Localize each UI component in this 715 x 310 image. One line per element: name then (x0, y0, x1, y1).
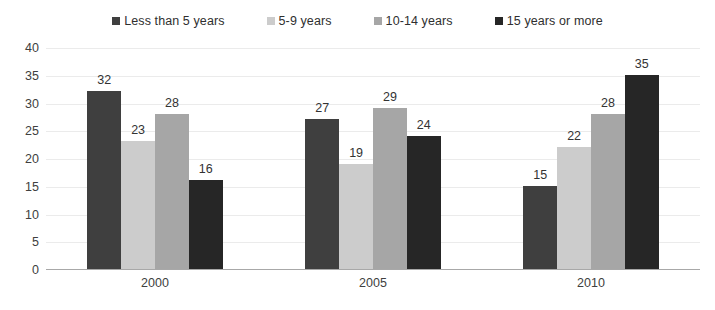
bar-value-label: 32 (87, 73, 121, 87)
bar[interactable]: 27 (305, 119, 339, 269)
bar-value-label: 23 (121, 123, 155, 137)
bar[interactable]: 23 (121, 141, 155, 269)
bar[interactable]: 15 (523, 186, 557, 269)
bar-value-label: 28 (155, 96, 189, 110)
bar-slot: 24 (407, 48, 441, 269)
bar-slot: 27 (305, 48, 339, 269)
bar-slot: 22 (557, 48, 591, 269)
x-axis-category-label: 2005 (264, 276, 482, 291)
bar-group: 32232816 (46, 48, 264, 269)
bar-slot: 29 (373, 48, 407, 269)
y-axis-tick-label: 5 (32, 236, 39, 249)
bar-value-label: 22 (557, 129, 591, 143)
bar-slot: 23 (121, 48, 155, 269)
bar-groups: 322328162719292415222835 (46, 48, 700, 269)
plot-area: 0510152025303540 32232816271929241522283… (46, 48, 700, 270)
y-axis-tick-label: 0 (32, 264, 39, 277)
bar[interactable]: 29 (373, 108, 407, 269)
bar-slot: 19 (339, 48, 373, 269)
bar-group: 15222835 (482, 48, 700, 269)
legend-label: 15 years or more (507, 14, 603, 28)
y-axis-tick-label: 35 (25, 69, 39, 82)
x-axis-category-label: 2000 (46, 276, 264, 291)
legend-swatch-icon (374, 17, 382, 25)
bar-value-label: 15 (523, 168, 557, 182)
x-axis-line (46, 269, 700, 270)
chart-legend: Less than 5 years 5-9 years 10-14 years … (0, 11, 715, 31)
y-axis-tick-label: 10 (25, 208, 39, 221)
legend-swatch-icon (112, 17, 120, 25)
y-axis-tick-label: 30 (25, 97, 39, 110)
legend-label: 5-9 years (279, 14, 332, 28)
x-axis-labels: 200020052010 (46, 276, 700, 291)
y-axis-tick-label: 15 (25, 180, 39, 193)
bar-slot: 28 (155, 48, 189, 269)
bar-value-label: 29 (373, 90, 407, 104)
bar-value-label: 24 (407, 118, 441, 132)
bar-value-label: 19 (339, 146, 373, 160)
bar-group: 27192924 (264, 48, 482, 269)
bar[interactable]: 28 (591, 114, 625, 269)
bar-slot: 15 (523, 48, 557, 269)
bar[interactable]: 35 (625, 75, 659, 269)
y-axis-tick-label: 25 (25, 125, 39, 138)
bar-chart: Less than 5 years 5-9 years 10-14 years … (0, 0, 715, 310)
bar-value-label: 35 (625, 57, 659, 71)
bar-value-label: 16 (189, 162, 223, 176)
y-axis-tick-label: 40 (25, 42, 39, 55)
bar-slot: 35 (625, 48, 659, 269)
bar[interactable]: 19 (339, 164, 373, 269)
bar[interactable]: 32 (87, 91, 121, 269)
bar[interactable]: 24 (407, 136, 441, 269)
bar-slot: 28 (591, 48, 625, 269)
y-axis-tick-label: 20 (25, 153, 39, 166)
legend-swatch-icon (495, 17, 503, 25)
bar-slot: 16 (189, 48, 223, 269)
bar-group-bars: 15222835 (523, 48, 658, 269)
legend-swatch-icon (267, 17, 275, 25)
bar-group-bars: 32232816 (87, 48, 222, 269)
bar-value-label: 27 (305, 101, 339, 115)
bar-value-label: 28 (591, 96, 625, 110)
bar-slot: 32 (87, 48, 121, 269)
bar[interactable]: 28 (155, 114, 189, 269)
legend-label: Less than 5 years (124, 14, 224, 28)
legend-label: 10-14 years (386, 14, 453, 28)
bar[interactable]: 16 (189, 180, 223, 269)
legend-item-10-14-years[interactable]: 10-14 years (374, 14, 453, 28)
legend-item-5-9-years[interactable]: 5-9 years (267, 14, 332, 28)
legend-item-less-than-5-years[interactable]: Less than 5 years (112, 14, 224, 28)
x-axis-category-label: 2010 (482, 276, 700, 291)
bar[interactable]: 22 (557, 147, 591, 269)
legend-item-15-years-or-more[interactable]: 15 years or more (495, 14, 603, 28)
bar-group-bars: 27192924 (305, 48, 440, 269)
gridline (46, 270, 700, 271)
